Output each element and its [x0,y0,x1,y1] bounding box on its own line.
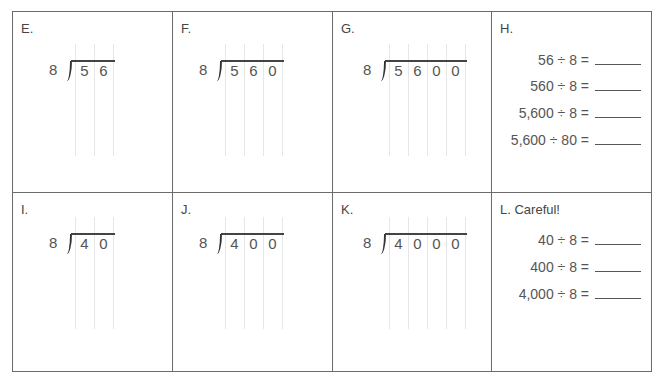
equation-row: 400 ÷ 8 = [530,259,641,275]
problem-j: J. 8 4 0 0 [173,193,332,371]
answer-blank[interactable] [595,143,641,145]
dividend-digit: 0 [94,235,113,252]
divisor: 8 [49,234,57,251]
answer-blank[interactable] [595,63,641,65]
problem-label: J. [181,202,191,217]
dividend-digit: 6 [94,62,113,79]
answer-blank[interactable] [595,270,641,272]
equation-expression: 5,600 ÷ 80 = [511,132,589,148]
divisor: 8 [363,234,371,251]
dividend-digit: 4 [75,235,94,252]
equation-expression: 5,600 ÷ 8 = [519,105,589,121]
problem-label: I. [21,202,28,217]
problem-label: L. Careful! [500,202,560,217]
problem-label: G. [341,21,355,36]
problem-k: K. 8 4 0 0 0 [333,193,491,371]
problem-label: K. [341,202,353,217]
division-bracket [213,61,222,81]
division-bracket [213,234,222,254]
equation-row: 4,000 ÷ 8 = [519,286,641,302]
equation-row: 5,600 ÷ 8 = [519,105,641,121]
dividend-digit: 6 [408,62,427,79]
equation-row: 560 ÷ 8 = [530,78,641,94]
equation-expression: 56 ÷ 8 = [538,52,589,68]
answer-blank[interactable] [595,89,641,91]
problem-f: F. 8 5 6 0 [173,12,332,192]
dividend-digit: 0 [446,62,465,79]
divisor: 8 [199,61,207,78]
dividend-digit: 0 [427,235,446,252]
divisor: 8 [363,61,371,78]
division-bracket [63,234,72,254]
equation-expression: 4,000 ÷ 8 = [519,286,589,302]
problem-g: G. 8 5 6 0 0 [333,12,491,192]
division-bracket [63,61,72,81]
dividend-digit: 0 [446,235,465,252]
equation-row: 40 ÷ 8 = [538,232,641,248]
equation-row: 56 ÷ 8 = [538,52,641,68]
equation-expression: 40 ÷ 8 = [538,232,589,248]
dividend-digit: 5 [75,62,94,79]
dividend-digit: 5 [225,62,244,79]
divisor: 8 [49,61,57,78]
divisor: 8 [199,234,207,251]
problem-l: L. Careful! 40 ÷ 8 = 400 ÷ 8 = 4,000 ÷ 8… [492,193,651,371]
equation-expression: 400 ÷ 8 = [530,259,589,275]
equation-row: 5,600 ÷ 80 = [511,132,641,148]
division-bracket [377,61,386,81]
answer-blank[interactable] [595,297,641,299]
dividend-digit: 4 [389,235,408,252]
problem-label: H. [500,21,513,36]
problem-i: I. 8 4 0 [13,193,172,371]
answer-blank[interactable] [595,243,641,245]
answer-blank[interactable] [595,116,641,118]
dividend-digit: 0 [263,62,282,79]
division-bracket [377,234,386,254]
worksheet-grid: E. 8 5 6 F. 8 5 6 0 G. [12,11,652,372]
dividend-digit: 0 [244,235,263,252]
dividend-digit: 4 [225,235,244,252]
dividend-digit: 0 [408,235,427,252]
problem-label: E. [21,21,33,36]
dividend-digit: 0 [427,62,446,79]
problem-e: E. 8 5 6 [13,12,172,192]
dividend-digit: 5 [389,62,408,79]
dividend-digit: 6 [244,62,263,79]
problem-label: F. [181,21,191,36]
dividend-digit: 0 [263,235,282,252]
problem-h: H. 56 ÷ 8 = 560 ÷ 8 = 5,600 ÷ 8 = 5,600 … [492,12,651,192]
equation-expression: 560 ÷ 8 = [530,78,589,94]
